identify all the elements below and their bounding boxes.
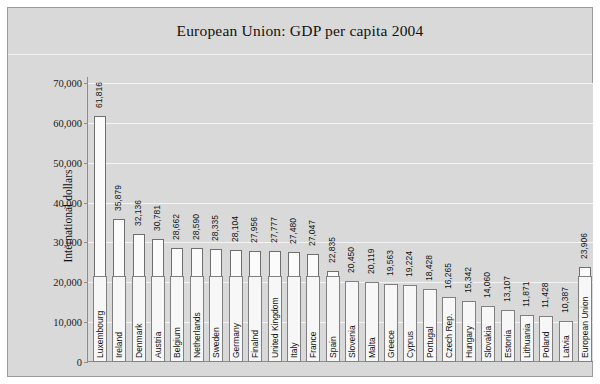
category-label: Netherlands [192, 312, 202, 358]
category-label: United Kingdom [270, 298, 280, 358]
category-label-box: Spain [326, 276, 340, 362]
y-axis-labels: 010,00020,00030,00040,00050,00060,00070,… [8, 55, 88, 376]
bar-group[interactable]: 28,662Belgium [170, 83, 184, 362]
bar-value-label: 15,342 [463, 267, 473, 293]
bar-group[interactable]: 23,906European Union [578, 83, 592, 362]
bar-group[interactable]: 28,590Netherlands [190, 83, 204, 362]
category-label-box: Finalnd [248, 276, 262, 362]
category-label-box: European Union [578, 276, 592, 362]
y-tick-label: 60,000 [53, 117, 82, 128]
category-label-box: Slovenia [345, 281, 359, 363]
category-label: Greece [386, 330, 396, 358]
bar-group[interactable]: 27,777United Kingdom [268, 83, 282, 362]
bar-value-label: 28,104 [230, 216, 240, 242]
plot-region: International dollars 61,816Luxembourg35… [8, 55, 592, 376]
bar-group[interactable]: 61,816Luxembourg [93, 83, 107, 362]
category-label-box: Slovakia [481, 306, 495, 362]
category-label-box: Poland [539, 316, 553, 362]
bar-group[interactable]: 11,871Lithuania [520, 83, 534, 362]
chart-figure: European Union: GDP per capita 2004 Inte… [0, 0, 600, 384]
category-label: Germany [231, 323, 241, 358]
bar-group[interactable]: 11,428Poland [539, 83, 553, 362]
bar-group[interactable]: 13,107Estonia [501, 83, 515, 362]
bar-group[interactable]: 27,956Finalnd [248, 83, 262, 362]
bar-group[interactable]: 27,047France [306, 83, 320, 362]
bar-value-label: 11,428 [540, 283, 550, 308]
category-label: Slovakia [483, 326, 493, 358]
category-label-box: Belgium [170, 276, 184, 362]
bar-group[interactable]: 20,119Malta [365, 83, 379, 362]
y-tick-label: 70,000 [53, 78, 82, 89]
bar-value-label: 16,265 [443, 263, 453, 289]
y-tick-label: 40,000 [53, 197, 82, 208]
bar-value-label: 13,107 [502, 276, 512, 302]
bar-group[interactable]: 22,835Spain [326, 83, 340, 362]
category-label: Luxembourg [95, 311, 105, 358]
category-label: Spain [328, 336, 338, 358]
bar-value-label: 32,136 [133, 200, 143, 226]
bar-group[interactable]: 32,136Denmark [132, 83, 146, 362]
category-label: Hungary [464, 326, 474, 358]
category-label-box: Latvia [559, 321, 573, 362]
category-label: Malta [367, 337, 377, 358]
category-label-box: Portugal [423, 289, 437, 362]
category-label-box: France [306, 276, 320, 362]
y-tick-label: 10,000 [53, 317, 82, 328]
bar-group[interactable]: 10,387Latvia [559, 83, 573, 362]
category-label-box: Cyprus [403, 285, 417, 362]
bar-group[interactable]: 28,335Sweden [209, 83, 223, 362]
category-label: France [308, 332, 318, 358]
category-label-box: Netherlands [190, 276, 204, 362]
bar-group[interactable]: 27,480Italy [287, 83, 301, 362]
category-label-box: Denmark [132, 276, 146, 362]
category-label-box: Ireland [112, 276, 126, 362]
bar-group[interactable]: 30,781Austria [151, 83, 165, 362]
bar-value-label: 61,816 [94, 82, 104, 108]
bar-value-label: 20,119 [366, 248, 376, 273]
category-label: Belgium [172, 327, 182, 358]
bar-series: 61,816Luxembourg35,879Ireland32,136Denma… [88, 83, 593, 362]
bar-value-label: 27,480 [288, 218, 298, 244]
bar-group[interactable]: 18,428Portugal [423, 83, 437, 362]
category-label-box: United Kingdom [268, 276, 282, 362]
category-label-box: Greece [384, 284, 398, 362]
category-label: Portugal [425, 326, 435, 358]
bar-value-label: 30,781 [152, 205, 162, 231]
category-label: Italy [289, 342, 299, 358]
category-label-box: Lithuania [520, 315, 534, 362]
y-tick-label: 0 [77, 357, 82, 368]
bar-value-label: 22,835 [327, 237, 337, 263]
bar-value-label: 28,662 [171, 214, 181, 240]
bar-value-label: 10,387 [560, 287, 570, 313]
y-tick-label: 20,000 [53, 277, 82, 288]
category-label-box: Estonia [501, 310, 515, 362]
bar-group[interactable]: 19,224Cyprus [403, 83, 417, 362]
y-tick-label: 50,000 [53, 157, 82, 168]
bar-group[interactable]: 19,563Greece [384, 83, 398, 362]
bar-group[interactable]: 20,450Slovenia [345, 83, 359, 362]
bar-group[interactable]: 15,342Hungary [462, 83, 476, 362]
category-label: Finalnd [250, 330, 260, 358]
category-label-box: Austria [151, 276, 165, 362]
chart-title: European Union: GDP per capita 2004 [176, 22, 423, 40]
bar-value-label: 27,777 [269, 217, 279, 243]
bar-value-label: 19,563 [385, 250, 395, 276]
bar-value-label: 27,956 [249, 217, 259, 243]
bar-group[interactable]: 28,104Germany [229, 83, 243, 362]
y-tick-label: 30,000 [53, 237, 82, 248]
bar-value-label: 11,871 [521, 281, 531, 306]
category-label-box: Germany [229, 276, 243, 362]
category-label: Austria [153, 332, 163, 358]
category-label: Slovenia [347, 325, 357, 358]
bar-value-label: 23,906 [579, 233, 589, 259]
category-label: Latvia [561, 335, 571, 358]
bar-group[interactable]: 16,265Czech Rep. [442, 83, 456, 362]
category-label: Sweden [211, 327, 221, 358]
category-label-box: Italy [287, 276, 301, 362]
bar-group[interactable]: 14,060Slovakia [481, 83, 495, 362]
category-label: Lithuania [522, 323, 532, 358]
category-label-box: Sweden [209, 276, 223, 362]
category-label-box: Luxembourg [93, 276, 107, 362]
bar-group[interactable]: 35,879Ireland [112, 83, 126, 362]
bar-value-label: 28,590 [191, 214, 201, 240]
